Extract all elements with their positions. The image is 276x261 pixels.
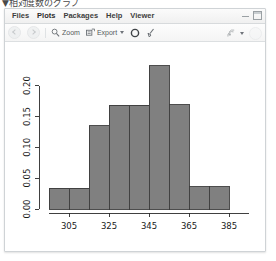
y-tick-label: 0.20 [22,76,32,95]
forward-button[interactable] [24,25,43,41]
publish-icon [226,29,237,38]
chevron-down-icon [120,31,124,34]
plot-canvas: 0.000.050.100.150.20305325345365385 [5,42,265,251]
export-label: Export [97,25,117,41]
clear-all-plots-icon [146,28,156,38]
y-tick-label: 0.00 [22,200,32,219]
screenshot-root: ▼相対度数のグラフ Files Plots Packages Help View… [0,0,276,261]
tab-viewer[interactable]: Viewer [126,9,158,23]
histogram-bar [189,187,209,209]
window-controls [241,11,262,20]
refresh-icon[interactable] [249,27,262,40]
plots-pane: Files Plots Packages Help Viewer [4,8,266,252]
plots-toolbar: Zoom Export [5,24,265,42]
tab-plots[interactable]: Plots [33,9,59,23]
forward-arrow-icon [27,26,40,39]
clear-all-plots-button[interactable] [143,25,159,41]
pane-tabstrip: Files Plots Packages Help Viewer [5,9,265,24]
tab-help[interactable]: Help [102,9,126,23]
back-button[interactable] [5,25,24,41]
histogram-bar [49,188,69,209]
toolbar-separator-1 [45,28,46,38]
chevron-down-icon [240,32,244,35]
toolbar-right-group [223,24,262,42]
x-tick-label: 365 [181,221,197,231]
export-icon [86,28,95,37]
histogram-bar [69,188,89,209]
histogram-bar [149,66,169,209]
y-tick-label: 0.05 [22,169,32,188]
y-tick-label: 0.15 [22,107,32,126]
zoom-button[interactable]: Zoom [48,25,83,41]
y-tick-label: 0.10 [22,138,32,157]
export-button[interactable]: Export [83,25,127,41]
histogram-plot: 0.000.050.100.150.20305325345365385 [5,42,265,251]
zoom-label: Zoom [62,25,80,41]
publish-button[interactable] [223,25,247,41]
tab-packages[interactable]: Packages [59,9,102,23]
x-tick-label: 325 [101,221,117,231]
magnifier-icon [51,28,60,37]
tab-files[interactable]: Files [8,9,33,23]
back-arrow-icon [8,26,21,39]
histogram-bar [169,105,189,209]
x-tick-label: 345 [141,221,157,231]
histogram-bar [209,187,229,209]
maximize-icon[interactable] [253,11,262,20]
histogram-bar [109,105,129,209]
remove-plot-icon [130,28,140,38]
x-tick-label: 305 [61,221,77,231]
histogram-bar [129,105,149,209]
x-tick-label: 385 [221,221,237,231]
histogram-bar [89,126,109,209]
minimize-icon[interactable] [241,11,250,20]
remove-plot-button[interactable] [127,25,143,41]
histogram-bars [49,66,229,209]
